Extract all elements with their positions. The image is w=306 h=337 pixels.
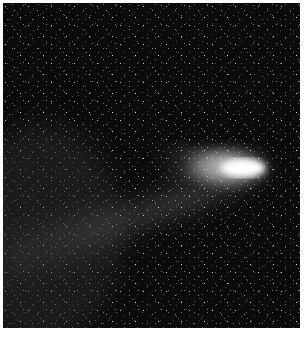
comet-scene	[3, 3, 300, 328]
comet-photo	[3, 3, 300, 328]
comet-nucleus	[221, 159, 265, 177]
